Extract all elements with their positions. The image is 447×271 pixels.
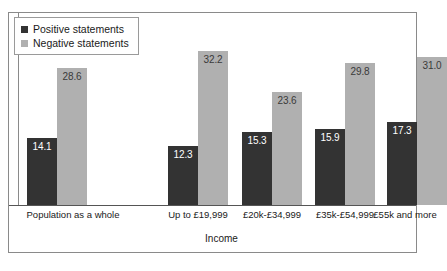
x-tick-label-2: £20k-£34,999 bbox=[232, 208, 312, 222]
bar-positive-3: 15.9 bbox=[315, 129, 345, 205]
legend-item-positive: Positive statements bbox=[21, 22, 129, 36]
x-tick-label-1: Up to £19,999 bbox=[158, 208, 238, 222]
bar-value-label: 14.1 bbox=[27, 141, 57, 152]
bar-value-label: 29.8 bbox=[345, 66, 375, 77]
x-tick-label-4: £55k and more bbox=[366, 208, 444, 222]
bar-value-label: 32.2 bbox=[198, 54, 228, 65]
bar-value-label: 31.0 bbox=[417, 60, 447, 71]
legend-label-negative: Negative statements bbox=[33, 36, 129, 50]
chart-legend: Positive statements Negative statements bbox=[14, 17, 139, 55]
legend-item-negative: Negative statements bbox=[21, 36, 129, 50]
legend-label-positive: Positive statements bbox=[33, 22, 124, 36]
bar-value-label: 28.6 bbox=[57, 71, 87, 82]
bar-positive-1: 12.3 bbox=[168, 146, 198, 205]
bar-negative-3: 29.8 bbox=[345, 63, 375, 205]
bar-value-label: 12.3 bbox=[168, 149, 198, 160]
legend-swatch-negative-icon bbox=[21, 40, 28, 47]
bar-negative-4: 31.0 bbox=[417, 57, 447, 205]
bar-negative-0: 28.6 bbox=[57, 68, 87, 205]
bar-value-label: 15.3 bbox=[242, 135, 272, 146]
x-axis-title: Income bbox=[0, 232, 443, 245]
bar-positive-2: 15.3 bbox=[242, 132, 272, 205]
bar-value-label: 23.6 bbox=[272, 95, 302, 106]
x-axis-tick-labels: Population as a wholeUp to £19,999£20k-£… bbox=[0, 208, 443, 224]
bar-negative-2: 23.6 bbox=[272, 92, 302, 205]
bar-negative-1: 32.2 bbox=[198, 51, 228, 205]
bar-positive-0: 14.1 bbox=[27, 138, 57, 205]
bar-value-label: 15.9 bbox=[315, 132, 345, 143]
x-tick-label-0: Population as a whole bbox=[0, 208, 148, 222]
bar-positive-4: 17.3 bbox=[387, 122, 417, 205]
legend-swatch-positive-icon bbox=[21, 26, 28, 33]
bar-value-label: 17.3 bbox=[387, 125, 417, 136]
